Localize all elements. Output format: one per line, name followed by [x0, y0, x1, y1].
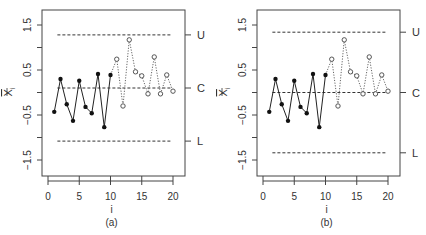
data-point-filled — [298, 105, 302, 109]
phase2-line — [326, 40, 389, 106]
x-axis-label: i — [325, 204, 327, 215]
data-point-filled — [273, 77, 277, 81]
data-point-filled — [77, 79, 81, 83]
data-point-filled — [323, 73, 327, 77]
x-axis: 05101520i — [260, 176, 394, 215]
data-point-open — [355, 74, 359, 78]
data-point-open — [127, 38, 131, 42]
y-tick-label: 1.5 — [22, 18, 33, 32]
y-tick-label: −1.5 — [22, 150, 33, 170]
data-point-open — [133, 70, 137, 74]
limit-label-U: U — [412, 26, 420, 38]
panel-label: (b) — [320, 217, 332, 228]
control-charts: −1.5−0.50.51.5Xi05101520i(a)UCL−1.5−0.50… — [0, 0, 426, 235]
data-point-open — [158, 92, 162, 96]
data-point-open — [140, 74, 144, 78]
data-point-open — [367, 55, 371, 59]
x-tick-label: 0 — [45, 191, 51, 202]
data-point-open — [165, 73, 169, 77]
data-point-open — [361, 92, 365, 96]
chart-panel-b: −1.5−0.50.51.5Xi05101520i(b)UCL — [217, 10, 420, 228]
limit-label-L: L — [412, 147, 418, 159]
y-tick-label: 0.5 — [237, 63, 248, 77]
data-point-open — [386, 89, 390, 93]
data-point-filled — [96, 72, 100, 76]
x-axis: 05101520i — [45, 176, 179, 215]
data-point-filled — [108, 73, 112, 77]
chart-panel-a: −1.5−0.50.51.5Xi05101520i(a)UCL — [2, 10, 205, 228]
x-tick-label: 20 — [167, 191, 179, 202]
x-tick-label: 10 — [320, 191, 332, 202]
data-point-filled — [305, 111, 309, 115]
data-point-open — [330, 57, 334, 61]
limit-label-C: C — [412, 87, 420, 99]
limit-label-C: C — [197, 82, 205, 94]
phase1-line — [54, 74, 110, 127]
y-tick-label: 1.5 — [237, 18, 248, 32]
y-axis: −1.5−0.50.51.5Xi — [217, 18, 257, 170]
data-point-open — [380, 73, 384, 77]
y-tick-label: −0.5 — [237, 105, 248, 125]
y-axis-label: Xi — [2, 87, 16, 96]
data-point-filled — [83, 105, 87, 109]
x-tick-label: 20 — [382, 191, 394, 202]
data-point-filled — [65, 102, 69, 106]
panel-label: (a) — [105, 217, 117, 228]
x-tick-label: 0 — [260, 191, 266, 202]
data-point-filled — [292, 79, 296, 83]
x-tick-label: 15 — [136, 191, 148, 202]
data-point-open — [336, 104, 340, 108]
data-point-filled — [286, 119, 290, 123]
x-tick-label: 10 — [105, 191, 117, 202]
data-point-open — [171, 89, 175, 93]
data-point-filled — [102, 125, 106, 129]
data-point-filled — [267, 110, 271, 114]
data-point-filled — [311, 72, 315, 76]
data-point-open — [342, 38, 346, 42]
y-axis: −1.5−0.50.51.5Xi — [2, 18, 42, 170]
data-point-filled — [71, 119, 75, 123]
limit-label-L: L — [197, 135, 203, 147]
x-tick-label: 5 — [291, 191, 297, 202]
y-tick-label: 0.5 — [22, 63, 33, 77]
data-point-filled — [280, 102, 284, 106]
y-axis-label: Xi — [217, 87, 231, 96]
data-point-filled — [317, 125, 321, 129]
data-point-open — [146, 92, 150, 96]
data-point-filled — [58, 77, 62, 81]
y-tick-label: −1.5 — [237, 150, 248, 170]
control-limits: UCL — [272, 26, 420, 159]
data-point-open — [348, 70, 352, 74]
data-point-open — [121, 104, 125, 108]
control-limits: UCL — [57, 29, 205, 147]
data-point-filled — [52, 110, 56, 114]
x-tick-label: 5 — [76, 191, 82, 202]
x-tick-label: 15 — [351, 191, 363, 202]
data-point-open — [115, 57, 119, 61]
limit-label-U: U — [197, 29, 205, 41]
y-tick-label: −0.5 — [22, 105, 33, 125]
x-axis-label: i — [110, 204, 112, 215]
data-point-open — [152, 55, 156, 59]
phase2-line — [111, 40, 174, 106]
data-point-open — [373, 92, 377, 96]
phase1-line — [269, 74, 325, 127]
data-point-filled — [90, 111, 94, 115]
